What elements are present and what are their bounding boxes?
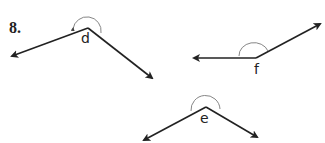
ray-e-right xyxy=(206,107,257,137)
ray-d-right xyxy=(88,28,152,78)
angle-d xyxy=(12,17,152,78)
angle-figures xyxy=(0,0,325,143)
angle-label-d: d xyxy=(81,31,90,45)
angle-f xyxy=(194,24,320,58)
angle-label-e: e xyxy=(200,111,209,125)
ray-f-right xyxy=(256,24,320,58)
ray-d-left xyxy=(12,28,88,56)
angle-label-f: f xyxy=(254,62,259,76)
arc-e xyxy=(191,95,220,111)
ray-e-left xyxy=(144,107,206,140)
